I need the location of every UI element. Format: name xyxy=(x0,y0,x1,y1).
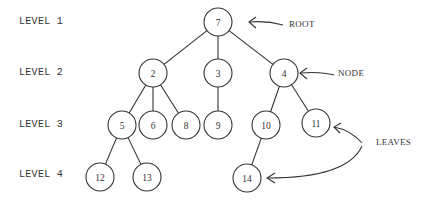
root-arrowhead-icon xyxy=(249,17,256,28)
level-4-label: LEVEL 4 xyxy=(19,169,63,180)
level-2-label: LEVEL 2 xyxy=(19,67,63,78)
edge-2-8 xyxy=(161,85,179,113)
node-arrowhead-icon xyxy=(300,68,307,79)
node-label: 10 xyxy=(261,121,271,131)
tree-node-8: 8 xyxy=(172,111,200,139)
root-annotation: ROOT xyxy=(289,19,315,29)
node-label: 9 xyxy=(216,121,221,131)
level-1-label: LEVEL 1 xyxy=(19,16,63,27)
edge-5-12 xyxy=(105,138,116,164)
tree-node-2: 2 xyxy=(139,59,167,87)
edge-10-14 xyxy=(252,138,262,165)
tree-node-14: 14 xyxy=(233,164,261,192)
tree-diagram: 723456891011121314 LEVEL 1 LEVEL 2 LEVEL… xyxy=(0,0,432,202)
node-label: 2 xyxy=(151,69,156,79)
tree-nodes: 723456891011121314 xyxy=(86,8,330,192)
tree-node-7: 7 xyxy=(204,8,232,36)
leaves-arrow-to-11-icon xyxy=(334,127,362,143)
tree-node-6: 6 xyxy=(139,111,167,139)
annotation-arrows xyxy=(249,17,362,183)
tree-node-10: 10 xyxy=(252,111,280,139)
node-label: 6 xyxy=(151,121,156,131)
node-label: 14 xyxy=(242,174,252,184)
root-arrow-icon xyxy=(250,22,283,25)
tree-node-11: 11 xyxy=(302,109,330,137)
tree-node-13: 13 xyxy=(133,163,161,191)
edge-5-13 xyxy=(128,138,141,165)
tree-node-9: 9 xyxy=(204,111,232,139)
leaves-arrow-to-14-icon xyxy=(268,146,362,178)
node-label: 8 xyxy=(184,121,189,131)
tree-node-4: 4 xyxy=(270,59,298,87)
node-arrow-icon xyxy=(301,72,334,75)
edge-4-11 xyxy=(292,85,309,111)
node-label: 13 xyxy=(142,173,152,183)
edge-7-4 xyxy=(229,31,273,65)
tree-node-12: 12 xyxy=(86,163,114,191)
node-annotation: NODE xyxy=(338,68,364,78)
node-label: 11 xyxy=(311,119,320,129)
tree-node-5: 5 xyxy=(108,111,136,139)
tree-node-3: 3 xyxy=(204,59,232,87)
edge-7-2 xyxy=(164,31,207,65)
tree-canvas: 723456891011121314 xyxy=(0,0,432,202)
edge-4-10 xyxy=(271,86,280,112)
tree-edges xyxy=(105,31,308,165)
edge-2-5 xyxy=(129,85,146,113)
leaves-annotation: LEAVES xyxy=(376,137,411,147)
node-label: 4 xyxy=(282,69,287,79)
node-label: 3 xyxy=(216,69,221,79)
level-3-label: LEVEL 3 xyxy=(19,119,63,130)
node-label: 7 xyxy=(216,18,221,28)
node-label: 12 xyxy=(95,173,105,183)
node-label: 5 xyxy=(120,121,125,131)
